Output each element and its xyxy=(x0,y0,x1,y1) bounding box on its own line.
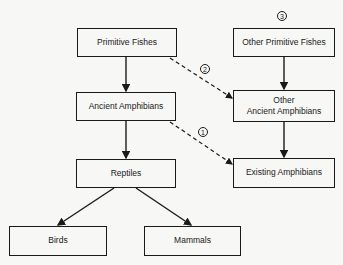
node-other-ancient-amphibians: Other Ancient Amphibians xyxy=(233,90,335,122)
node-label: Primitive Fishes xyxy=(97,37,157,48)
node-label: Other Primitive Fishes xyxy=(242,37,326,48)
node-primitive-fishes: Primitive Fishes xyxy=(77,28,177,57)
badge-2: 2 xyxy=(200,64,210,74)
node-other-primitive-fishes: Other Primitive Fishes xyxy=(233,28,335,57)
node-label: Existing Amphibians xyxy=(246,167,322,178)
node-label-line2: Ancient Amphibians xyxy=(247,106,322,117)
badge-1: 1 xyxy=(198,127,208,137)
node-existing-amphibians: Existing Amphibians xyxy=(233,158,335,188)
edge-reptiles-to-birds xyxy=(58,188,114,225)
node-label: Reptiles xyxy=(111,168,142,179)
node-label: Mammals xyxy=(174,235,211,246)
edge-reptiles-to-mammals xyxy=(136,188,191,225)
node-label: Birds xyxy=(48,235,67,246)
node-reptiles: Reptiles xyxy=(76,159,176,188)
node-birds: Birds xyxy=(9,226,107,256)
node-ancient-amphibians: Ancient Amphibians xyxy=(76,92,176,121)
badge-3: 3 xyxy=(277,11,287,21)
node-mammals: Mammals xyxy=(144,226,241,256)
node-label: Ancient Amphibians xyxy=(89,101,164,112)
node-label-line1: Other xyxy=(273,95,294,106)
